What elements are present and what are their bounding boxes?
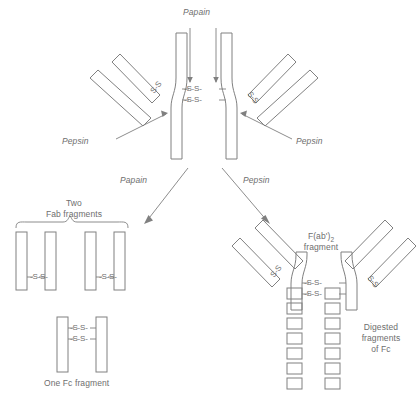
antibody-digestion-diagram: Papain -S-S- -S-S- S-S S-S Pepsin Pepsin… [0,0,420,407]
papain-top-label: Papain [183,7,210,17]
pepsin-left-label: Pepsin [62,136,89,146]
antibody-left-outer-arm [90,70,151,126]
fc-disulfide-label-1: -S-S- [70,323,88,332]
fc-caption: One Fc fragment [44,378,109,388]
fab2-left-light-chain [232,238,280,287]
fab-pair1-disulfide-label: -S-S- [30,272,48,281]
antibody-right-outer-arm [257,70,318,126]
fab2-title-main: F(ab') [308,231,331,241]
digested-fc-line3: of Fc [347,344,415,354]
papain-arrow-left [187,28,193,83]
fc-caption-text: One Fc fragment [44,378,109,388]
fab2-hinge-disulfide-label-1: -S-S- [304,278,322,287]
antibody-left-light-chain [112,54,160,103]
pepsin-right-label: Pepsin [296,136,323,146]
fab-title-line2: Fab fragments [34,209,114,219]
hinge-disulfide-label-2: -S-S- [184,95,202,104]
papain-arrow-right [213,28,219,83]
fc-disulfide-label-2: -S-S- [70,334,88,343]
digested-fc-line1: Digested [347,322,415,332]
fab-pair2-disulfide-label: -S-S- [99,272,117,281]
papain-pathway-label: Papain [120,175,147,185]
hinge-disulfide-label-1: -S-S- [184,84,202,93]
pepsin-pathway-label: Pepsin [243,175,270,185]
antibody-right-heavy-chain [221,33,237,159]
fab2-right-heavy-chain [341,252,357,310]
fab-title-line1: Two [44,198,104,208]
digested-fc-fragment-squares [287,288,340,389]
papain-pathway-arrow [144,168,188,224]
fab2-title-line2: fragment [292,242,350,252]
fab2-hinge-disulfide-label-2: -S-S- [304,289,322,298]
fab-fragments-bars [16,232,125,290]
digested-fc-line2: fragments [347,333,415,343]
